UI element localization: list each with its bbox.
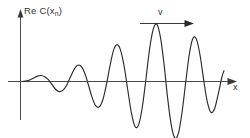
y-axis: [18, 9, 24, 120]
x-axis-label: x: [233, 83, 238, 92]
x-axis: [8, 78, 237, 85]
y-axis-label: Re C(xn): [24, 6, 62, 16]
plot-canvas: [0, 0, 250, 138]
velocity-label: v: [158, 8, 163, 17]
wave-packet-curve: [23, 24, 224, 138]
y-axis-label-subscript: n: [55, 10, 59, 17]
y-axis-label-close: ): [59, 5, 62, 16]
arrow-right-icon: [185, 20, 195, 27]
wave-packet-figure: Re C(xn) x v: [0, 0, 250, 138]
y-axis-label-main: Re C(x: [24, 5, 55, 16]
velocity-arrow: [140, 20, 194, 27]
arrow-up-icon: [18, 9, 24, 18]
